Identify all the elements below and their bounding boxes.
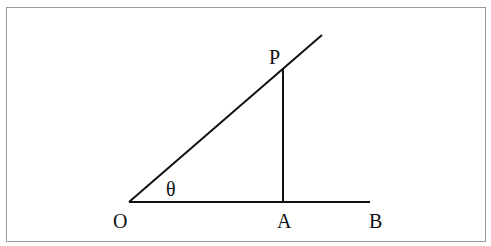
label-p: P <box>269 46 280 68</box>
label-o: O <box>113 210 127 232</box>
label-theta: θ <box>166 178 176 200</box>
triangle-diagram: P θ O A B <box>0 0 491 246</box>
ray-op <box>129 35 322 202</box>
label-b: B <box>369 210 382 232</box>
label-a: A <box>277 210 292 232</box>
